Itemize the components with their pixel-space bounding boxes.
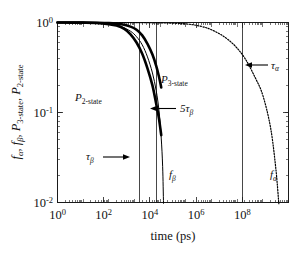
log-log-plot: 100 102 104 106 108 100 10-1 10-2 time (… xyxy=(0,0,299,263)
figure-container: 100 102 104 106 108 100 10-1 10-2 time (… xyxy=(0,0,299,263)
plot-background xyxy=(0,0,299,263)
x-axis-label: time (ps) xyxy=(151,229,196,243)
